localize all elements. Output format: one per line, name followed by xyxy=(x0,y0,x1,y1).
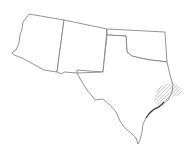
range-map xyxy=(0,0,188,153)
state-new-mexico xyxy=(57,20,107,74)
state-arizona xyxy=(12,14,64,72)
